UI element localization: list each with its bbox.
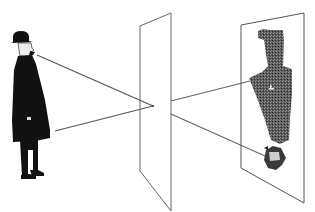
inverted-projected-image bbox=[249, 29, 292, 170]
pinhole-aperture bbox=[152, 105, 154, 107]
pinhole-plane bbox=[140, 13, 171, 211]
outgoing-rays bbox=[171, 81, 265, 156]
observer-figure bbox=[11, 31, 50, 179]
diagram-canvas bbox=[0, 0, 315, 212]
incoming-rays bbox=[37, 55, 153, 131]
pinhole-projection-diagram: Camera obscura / pinhole projection illu… bbox=[0, 0, 315, 212]
